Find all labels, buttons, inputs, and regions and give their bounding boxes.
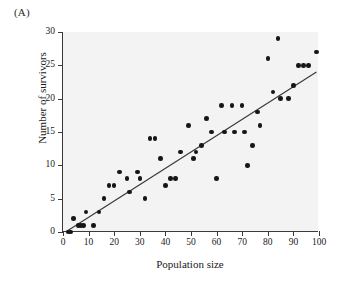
x-tick [268,231,269,236]
data-point [230,103,235,108]
data-point [222,130,227,135]
data-point [102,196,107,201]
data-point [117,170,122,175]
data-point [242,130,247,135]
data-point [81,223,86,228]
data-point [71,216,76,221]
y-tick-label: 30 [46,27,56,37]
data-point [68,230,73,235]
y-tick-label: 25 [46,61,56,71]
data-point [112,183,117,188]
data-point [153,136,158,141]
data-point [258,123,263,128]
plot-inner [63,32,318,231]
data-point [127,190,132,195]
y-axis-label-wrapper: Number of survivors [14,52,30,212]
panel-label: (A) [14,6,30,18]
data-point [266,56,271,61]
data-point [178,150,183,155]
x-tick-label: 70 [237,238,247,248]
data-point [135,170,140,175]
x-tick-label: 10 [84,238,94,248]
x-tick [114,231,115,236]
data-point [219,103,224,108]
y-tick-label: 15 [46,127,56,137]
data-point [168,176,173,181]
data-point [148,136,153,141]
y-tick-label: 10 [46,161,56,171]
data-point [204,116,209,121]
data-point [173,176,178,181]
data-point [250,143,255,148]
data-point [255,110,260,115]
data-point [84,210,89,215]
data-point [199,143,204,148]
y-tick-label: 20 [46,94,56,104]
x-tick-label: 90 [289,238,299,248]
data-point [306,63,311,68]
data-point [209,130,214,135]
figure-panel-a: (A) Number of survivors 0510152025300102… [0,0,339,286]
data-point [301,63,306,68]
data-point [194,150,199,155]
x-axis-label: Population size [62,258,318,270]
data-point [191,156,196,161]
data-point [186,123,191,128]
x-tick-label: 40 [161,238,171,248]
data-point [107,183,112,188]
data-point [245,163,250,168]
y-tick [58,165,63,166]
x-tick [140,231,141,236]
x-tick [293,231,294,236]
data-point [97,210,102,215]
y-tick [58,199,63,200]
data-point [158,156,163,161]
y-tick [58,99,63,100]
data-point [278,96,283,101]
x-tick [217,231,218,236]
x-tick [89,231,90,236]
x-tick-label: 30 [135,238,145,248]
data-point [138,176,143,181]
data-point [143,196,148,201]
data-point [240,103,245,108]
y-tick-label: 0 [50,227,55,237]
data-point [232,130,237,135]
y-tick [58,65,63,66]
x-tick-label: 80 [263,238,273,248]
data-point [314,50,319,55]
x-tick [63,231,64,236]
data-point [271,90,276,95]
data-point [125,176,130,181]
data-point [291,83,296,88]
data-point [91,223,96,228]
data-point [163,183,168,188]
y-tick-label: 5 [50,194,55,204]
x-tick-label: 60 [212,238,222,248]
x-tick [165,231,166,236]
y-tick [58,32,63,33]
x-tick-label: 50 [186,238,196,248]
y-tick [58,132,63,133]
data-point [214,176,219,181]
x-tick-label: 0 [61,238,66,248]
x-tick [242,231,243,236]
x-tick-label: 100 [312,238,326,248]
data-point [296,63,301,68]
data-point [276,36,281,41]
data-point [286,96,291,101]
x-tick-label: 20 [109,238,119,248]
trendline [63,32,319,232]
x-tick [191,231,192,236]
x-tick [319,231,320,236]
plot-area: 0510152025300102030405060708090100 [62,32,318,232]
